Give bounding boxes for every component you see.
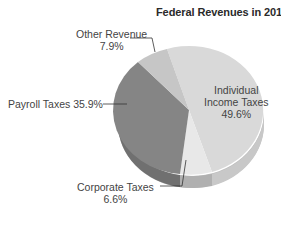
corporate-taxes-name: Corporate Taxes xyxy=(77,181,154,193)
label-individual-income-taxes: Individual Income Taxes 49.6% xyxy=(204,84,269,120)
individual-line2: Income Taxes xyxy=(204,96,269,108)
individual-pct: 49.6% xyxy=(204,108,269,120)
corporate-taxes-pct: 6.6% xyxy=(77,193,154,205)
other-revenue-pct: 7.9% xyxy=(76,40,147,52)
individual-line1: Individual xyxy=(204,84,269,96)
payroll-taxes-text: Payroll Taxes 35.9% xyxy=(8,98,103,110)
other-revenue-name: Other Revenue xyxy=(76,28,147,40)
label-corporate-taxes: Corporate Taxes 6.6% xyxy=(77,181,154,205)
label-payroll-taxes: Payroll Taxes 35.9% xyxy=(8,98,103,110)
label-other-revenue: Other Revenue 7.9% xyxy=(76,28,147,52)
